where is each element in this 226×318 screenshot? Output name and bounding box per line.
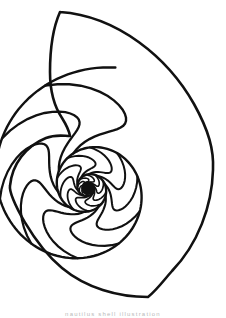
chamber-septa-group [0,84,140,258]
chamber-septum [45,84,126,153]
chamber-septum [76,196,90,211]
image-caption: nautilus shell illustration [0,311,226,318]
chamber-septum [70,207,118,246]
chamber-septum [0,144,58,200]
chamber-septum [89,147,112,174]
chamber-septum [43,210,84,258]
shell-outer-outline [10,12,213,297]
spiral-core-umbilicus [81,181,95,195]
chamber-septum [60,177,78,198]
